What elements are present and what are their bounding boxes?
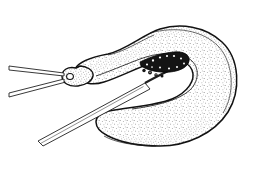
cervix (62, 66, 93, 86)
endometrial-biopsy-figure: Endometrial biopsy (0, 0, 256, 181)
illustration-canvas (0, 0, 256, 181)
cervical-os (67, 74, 74, 80)
